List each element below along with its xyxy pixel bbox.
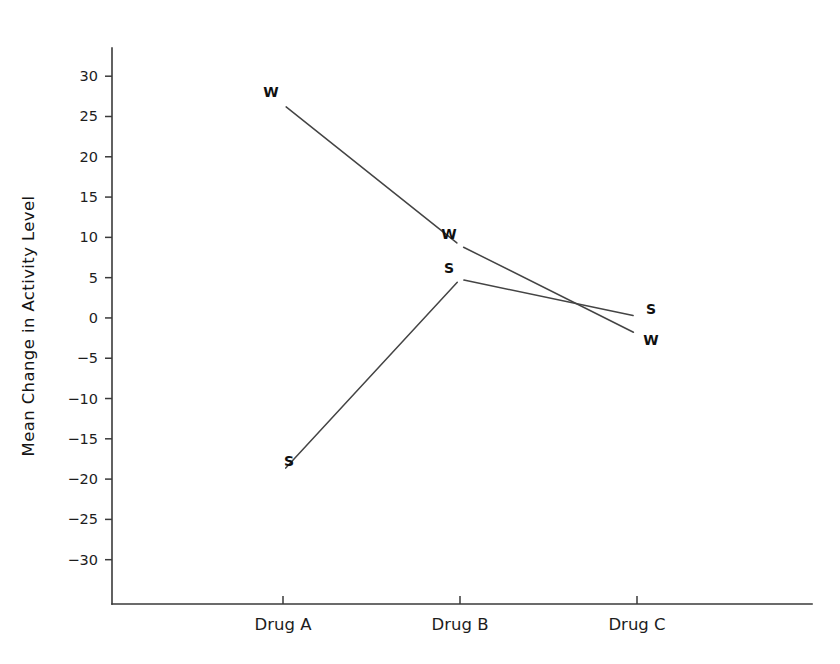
- data-point-label-w: W: [263, 84, 278, 100]
- y-tick-label: −20: [67, 471, 98, 487]
- y-tick-label: −15: [67, 431, 98, 447]
- series-point-markers: WWWSSS: [263, 84, 658, 469]
- data-point-label-w: W: [441, 226, 456, 242]
- interaction-plot: 302520151050−5−10−15−20−25−30 Drug ADrug…: [0, 0, 840, 664]
- data-point-label-w: W: [643, 332, 658, 348]
- data-point-label-s: S: [646, 301, 656, 317]
- x-category-label: Drug A: [255, 615, 313, 634]
- y-tick-label: 5: [89, 270, 98, 286]
- x-category-label: Drug C: [608, 615, 665, 634]
- series-lines: [286, 107, 634, 468]
- series-segment-W: [286, 107, 457, 243]
- y-axis-ticks: 302520151050−5−10−15−20−25−30: [67, 68, 112, 567]
- y-tick-label: −25: [67, 511, 98, 527]
- chart-figure: 302520151050−5−10−15−20−25−30 Drug ADrug…: [0, 0, 840, 664]
- x-axis-ticks: Drug ADrug BDrug C: [255, 596, 666, 634]
- data-point-label-s: S: [444, 260, 454, 276]
- x-category-label: Drug B: [432, 615, 489, 634]
- series-segment-S: [286, 282, 458, 468]
- y-tick-label: −30: [67, 552, 98, 568]
- y-tick-label: −5: [77, 350, 98, 366]
- series-segment-W: [464, 247, 634, 332]
- y-axis-title: Mean Change in Activity Level: [19, 195, 38, 456]
- series-segment-S: [464, 280, 633, 315]
- y-tick-label: 0: [89, 310, 98, 326]
- data-point-label-s: S: [284, 453, 294, 469]
- y-tick-label: 25: [80, 108, 98, 124]
- y-tick-label: −10: [67, 391, 98, 407]
- y-tick-label: 10: [80, 229, 98, 245]
- y-tick-label: 30: [80, 68, 98, 84]
- y-tick-label: 20: [80, 149, 98, 165]
- y-tick-label: 15: [80, 189, 98, 205]
